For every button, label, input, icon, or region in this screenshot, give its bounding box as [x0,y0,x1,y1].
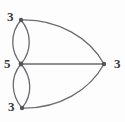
graph-figure: 3 5 3 3 [0,0,125,122]
vertex-label-bottom: 3 [8,100,15,113]
edge-middle-bottom-right [21,64,30,108]
vertex-bottom [20,106,24,110]
vertex-label-top: 3 [7,10,14,23]
vertex-label-middle: 5 [4,57,11,70]
vertex-top [19,18,23,22]
vertex-right [102,62,106,66]
vertex-middle [19,62,24,67]
graph-canvas [0,0,125,122]
edge-top-right-outer [21,20,104,64]
edge-bottom-right-outer [22,64,104,108]
vertex-label-right: 3 [114,57,121,70]
edge-top-middle-left [13,20,21,64]
edge-group [13,20,104,108]
edge-top-middle-right [21,20,29,64]
